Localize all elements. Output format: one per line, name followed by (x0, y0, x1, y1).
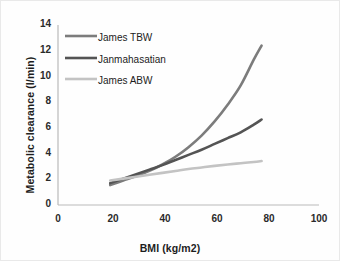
legend-item-label: James TBW (98, 32, 152, 43)
series-line-2 (110, 120, 261, 184)
legend-item-label: James ABW (98, 75, 152, 86)
y-tick-label: 14 (27, 18, 51, 29)
x-tick-label: 20 (99, 213, 127, 224)
y-axis-title: Metabolic clearance (l/min) (24, 35, 38, 215)
series-line-3 (110, 161, 261, 181)
legend-swatches (65, 36, 97, 79)
chart-figure: 14 12 10 8 6 4 2 0 0 20 40 60 80 100 Jam… (0, 0, 340, 261)
x-tick-label: 40 (151, 213, 179, 224)
x-axis-title: BMI (kg/m2) (1, 242, 339, 254)
x-tick-label: 80 (255, 213, 283, 224)
x-tick-label: 60 (203, 213, 231, 224)
legend-item-label: Janmahasatian (98, 54, 166, 65)
x-tick-label: 100 (305, 213, 333, 224)
x-tick-label: 0 (44, 213, 72, 224)
series-lines (110, 46, 261, 186)
